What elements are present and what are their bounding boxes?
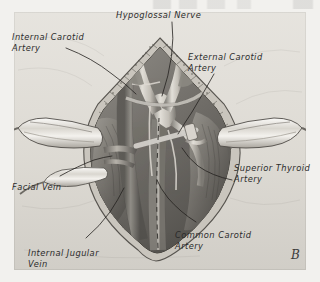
- label-internal-carotid-artery: Internal Carotid Artery: [12, 32, 84, 53]
- label-common-carotid-artery: Common Carotid Artery: [175, 230, 252, 251]
- figure-marker: B: [291, 248, 300, 262]
- label-internal-jugular-vein: Internal Jugular Vein: [28, 248, 99, 269]
- label-facial-vein: Facial Vein: [12, 182, 62, 193]
- label-external-carotid-artery: External Carotid Artery: [188, 52, 263, 73]
- figure-panel: Internal Carotid Artery Hypoglossal Nerv…: [0, 0, 320, 282]
- label-hypoglossal-nerve: Hypoglossal Nerve: [116, 10, 201, 21]
- label-superior-thyroid-artery: Superior Thyroid Artery: [234, 163, 310, 184]
